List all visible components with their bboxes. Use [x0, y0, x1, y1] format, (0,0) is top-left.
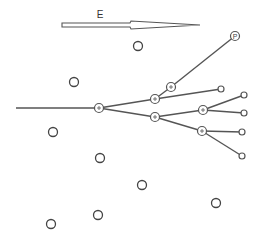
edge [155, 110, 203, 117]
terminal-node [218, 86, 224, 92]
terminal-nodes: P [218, 32, 247, 160]
direction-arrow: E [62, 9, 200, 29]
edge [202, 131, 242, 132]
diagram-canvas: E P [0, 0, 258, 242]
edge [155, 89, 221, 99]
free-circle-icon [49, 128, 58, 137]
edges [99, 36, 244, 156]
terminal-node [239, 153, 245, 159]
edge [171, 36, 235, 87]
terminal-node [241, 92, 247, 98]
edge [99, 108, 155, 117]
free-circle-icon [47, 220, 56, 229]
free-circle-icon [212, 199, 221, 208]
edge [99, 99, 155, 108]
terminal-node [241, 110, 247, 116]
free-circle-icon [134, 42, 143, 51]
free-circle-icon [94, 211, 103, 220]
node-label: P [233, 33, 238, 40]
free-circles [47, 42, 221, 229]
edge [155, 117, 202, 131]
free-circle-icon [96, 154, 105, 163]
arrow-icon [62, 21, 200, 29]
edge [202, 131, 242, 156]
arrow-label: E [97, 9, 104, 20]
terminal-node [239, 129, 245, 135]
free-circle-icon [70, 78, 79, 87]
edge [203, 110, 244, 113]
edge [203, 95, 244, 110]
free-circle-icon [138, 181, 147, 190]
